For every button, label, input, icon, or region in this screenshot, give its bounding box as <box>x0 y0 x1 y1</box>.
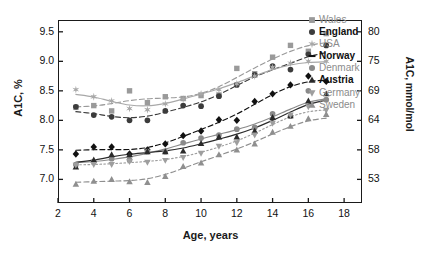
y-tick-label-left: 9.5 <box>24 25 54 37</box>
y-tick-label-left: 7.5 <box>24 143 54 155</box>
circle-icon <box>306 26 318 38</box>
legend-label: Norway <box>319 50 355 62</box>
x-tick-label: 18 <box>332 207 356 219</box>
y-tick-label-right: 64 <box>368 113 398 125</box>
legend-item[interactable]: Sweden <box>306 99 366 111</box>
star-icon <box>306 38 318 50</box>
triangle-icon <box>306 99 318 111</box>
x-tick-label: 14 <box>261 207 285 219</box>
y-axis-left-title: A1C, % <box>12 58 24 138</box>
legend-item[interactable]: Denmark <box>306 62 366 74</box>
legend-item[interactable]: USA <box>306 38 366 50</box>
legend-item[interactable]: Norway <box>306 50 366 62</box>
legend-label: USA <box>319 38 340 50</box>
chart-figure: A1C, % A1C, mmol/mol Age, years 7.07.58.… <box>0 0 422 259</box>
x-tick-label: 12 <box>225 207 249 219</box>
x-tick-label: 6 <box>118 207 142 219</box>
legend-label: Austria <box>319 74 353 86</box>
y-tick-label-right: 80 <box>368 25 398 37</box>
dash-icon <box>306 50 318 62</box>
y-axis-right-title: A1C, mmol/mol <box>404 39 416 149</box>
legend-item[interactable]: Germany <box>306 87 366 99</box>
x-tick-label: 4 <box>82 207 106 219</box>
triangle-down-icon <box>306 87 318 99</box>
x-tick-label: 2 <box>46 207 70 219</box>
y-tick-label-left: 7.0 <box>24 172 54 184</box>
x-tick-label: 16 <box>296 207 320 219</box>
triangle-icon <box>306 74 318 86</box>
y-tick-label-left: 8.0 <box>24 113 54 125</box>
x-axis-title: Age, years <box>58 229 363 241</box>
legend-label: England <box>319 26 358 38</box>
chart-legend: WalesEnglandUSANorwayDenmarkAustriaGerma… <box>306 14 366 111</box>
x-tick-label: 10 <box>189 207 213 219</box>
legend-item[interactable]: Wales <box>306 14 366 26</box>
y-tick-label-left: 8.5 <box>24 84 54 96</box>
y-tick-label-left: 9.0 <box>24 54 54 66</box>
square-icon <box>306 14 318 26</box>
x-tick-label: 8 <box>153 207 177 219</box>
legend-label: Germany <box>319 87 360 99</box>
legend-item[interactable]: Austria <box>306 74 366 86</box>
y-tick-label-right: 53 <box>368 172 398 184</box>
legend-label: Wales <box>319 14 346 26</box>
legend-item[interactable]: England <box>306 26 366 38</box>
y-tick-label-right: 75 <box>368 54 398 66</box>
circle-icon <box>306 62 318 74</box>
y-tick-label-right: 69 <box>368 84 398 96</box>
legend-label: Denmark <box>319 62 360 74</box>
legend-label: Sweden <box>319 99 355 111</box>
y-tick-label-right: 58 <box>368 143 398 155</box>
